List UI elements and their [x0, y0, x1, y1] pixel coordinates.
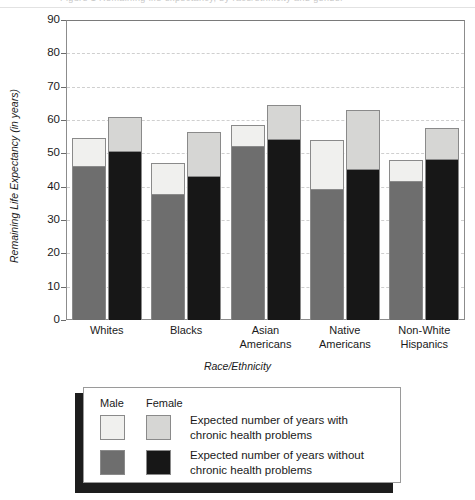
legend-label: Expected number of years withoutchronic …	[190, 448, 364, 477]
bar-group	[231, 21, 301, 320]
legend-swatch-male	[100, 450, 125, 475]
x-tick-label: NativeAmericans	[305, 324, 384, 351]
bar-groups	[67, 21, 464, 320]
legend-swatch-male	[100, 415, 125, 440]
legend-label: Expected number of years withchronic hea…	[190, 413, 348, 442]
bar-male	[231, 125, 265, 320]
bar-segment-without-chronic	[72, 167, 106, 320]
bar-female	[346, 110, 380, 320]
bar-segment-with-chronic	[310, 140, 344, 190]
legend-label-line: Expected number of years without	[190, 448, 364, 463]
y-tick-label: 90	[28, 14, 60, 26]
y-tick-label: 70	[28, 81, 60, 93]
x-tick-label-line: Americans	[226, 338, 305, 352]
bar-segment-with-chronic	[267, 105, 301, 140]
legend: Male Female Expected number of years wit…	[83, 387, 401, 483]
gridline	[67, 320, 464, 321]
bar-segment-without-chronic	[425, 160, 459, 320]
bar-group	[389, 21, 459, 320]
bar-male	[389, 160, 423, 320]
bar-segment-without-chronic	[231, 147, 265, 320]
y-tick-label: 40	[28, 181, 60, 193]
y-axis-title: Remaining Life Expectancy (in years)	[8, 66, 20, 286]
bar-segment-with-chronic	[108, 117, 142, 152]
bar-female	[108, 117, 142, 320]
y-tick-mark	[61, 320, 66, 321]
y-axis-tick-labels: 9080706050403020100	[22, 20, 60, 320]
bar-segment-with-chronic	[231, 125, 265, 147]
bar-segment-without-chronic	[187, 177, 221, 320]
x-tick-label: Blacks	[146, 324, 225, 338]
x-tick-label-line: Americans	[305, 338, 384, 352]
legend-label-line: chronic health problems	[190, 463, 364, 478]
x-tick-label-line: Asian	[226, 324, 305, 338]
bar-male	[151, 163, 185, 320]
legend-label-line: chronic health problems	[190, 428, 348, 443]
x-tick-label: AsianAmericans	[226, 324, 305, 351]
bar-segment-with-chronic	[425, 128, 459, 160]
bar-female	[267, 105, 301, 320]
x-tick-label: Non-WhiteHispanics	[385, 324, 464, 351]
bar-group	[151, 21, 221, 320]
bar-female	[187, 132, 221, 320]
bar-segment-without-chronic	[389, 182, 423, 320]
bar-female	[425, 128, 459, 320]
y-tick-label: 60	[28, 114, 60, 126]
chart-plot-wrapper: Remaining Life Expectancy (in years) 908…	[0, 0, 475, 375]
bar-male	[310, 140, 344, 320]
y-tick-label: 10	[28, 281, 60, 293]
legend-label-line: Expected number of years with	[190, 413, 348, 428]
y-tick-label: 50	[28, 147, 60, 159]
x-tick-label: Whites	[67, 324, 146, 338]
bar-group	[72, 21, 142, 320]
y-tick-label: 20	[28, 247, 60, 259]
x-axis-title: Race/Ethnicity	[0, 360, 475, 372]
bar-segment-with-chronic	[346, 110, 380, 170]
y-tick-label: 30	[28, 214, 60, 226]
legend-header-male: Male	[100, 397, 124, 409]
chart-page: Figure 1 Remaining life expectancy, by r…	[0, 0, 475, 500]
x-tick-label-line: Non-White	[385, 324, 464, 338]
legend-header-female: Female	[146, 397, 183, 409]
bar-segment-with-chronic	[187, 132, 221, 177]
x-tick-label-line: Hispanics	[385, 338, 464, 352]
legend-swatch-female	[146, 450, 171, 475]
bar-segment-with-chronic	[389, 160, 423, 182]
y-tick-label: 80	[28, 47, 60, 59]
x-tick-label-line: Native	[305, 324, 384, 338]
bar-segment-with-chronic	[151, 163, 185, 195]
y-tick-label: 0	[28, 314, 60, 326]
bar-segment-without-chronic	[346, 170, 380, 320]
bar-segment-without-chronic	[151, 195, 185, 320]
bar-segment-without-chronic	[310, 190, 344, 320]
x-tick-label-line: Blacks	[146, 324, 225, 338]
bar-male	[72, 138, 106, 320]
legend-swatch-female	[146, 415, 171, 440]
x-tick-label-line: Whites	[67, 324, 146, 338]
bar-segment-with-chronic	[72, 138, 106, 166]
bar-group	[310, 21, 380, 320]
x-axis-tick-labels: WhitesBlacksAsianAmericansNativeAmerican…	[67, 324, 464, 358]
bar-segment-without-chronic	[108, 152, 142, 320]
bar-segment-without-chronic	[267, 140, 301, 320]
